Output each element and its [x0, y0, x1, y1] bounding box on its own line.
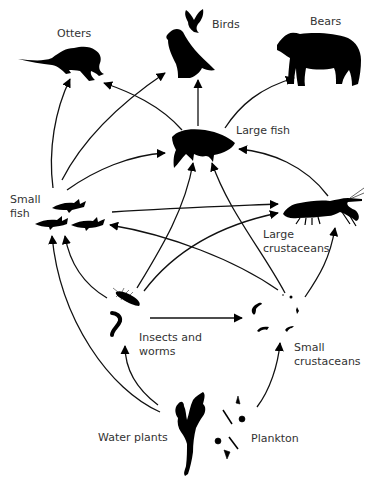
arrow-smallcrust-largecrust [305, 228, 335, 297]
flying-bird-icon [185, 9, 203, 33]
plankton-icon [215, 396, 245, 459]
arrow-plankton-smallcrust [257, 343, 280, 407]
water-plant-icon [175, 392, 205, 476]
label-large-fish: Large fish [236, 124, 290, 137]
arrow-waterplants-smallfish [52, 236, 160, 412]
label-large-crustaceans-line2: crustaceans [263, 242, 330, 255]
large-fish-icon [172, 129, 235, 168]
arrow-smallfish-largefish [67, 153, 165, 190]
arrow-insects-largecrust [144, 213, 278, 291]
insect-icon [113, 288, 140, 306]
crayfish-icon [283, 188, 364, 226]
label-plankton: Plankton [251, 432, 299, 445]
bird-icon [166, 29, 215, 78]
food-web-diagram: Otters Birds Bears Large fish Small fish… [0, 0, 365, 483]
arrow-smallcrust-smallfish [110, 225, 278, 290]
otter-icon [18, 47, 104, 81]
label-small-fish-line1: Small [10, 193, 41, 206]
label-birds: Birds [212, 18, 240, 31]
arrow-smallfish-largecrust [112, 204, 278, 212]
arrow-insects-largefish [137, 163, 193, 288]
arrow-insects-smallfish [65, 236, 107, 298]
arrow-largecrust-largefish [239, 149, 328, 196]
bear-icon [277, 33, 361, 86]
small-fish-icon [35, 199, 105, 231]
label-large-crustaceans-line1: Large [263, 228, 294, 241]
label-insects-line2: worms [139, 345, 176, 358]
label-bears: Bears [310, 15, 341, 28]
label-otters: Otters [57, 27, 91, 40]
label-water-plants: Water plants [98, 431, 168, 444]
label-small-fish-line2: fish [10, 207, 30, 220]
arrow-smallfish-birds [62, 73, 165, 180]
arrow-largefish-bears [225, 78, 294, 128]
small-crustacean-icon [252, 294, 299, 332]
arrow-largefish-otters [104, 83, 182, 130]
label-small-crustaceans-line2: crustaceans [294, 355, 361, 368]
label-insects-line1: Insects and [139, 331, 202, 344]
label-small-crustaceans-line1: Small [294, 341, 325, 354]
worm-icon [112, 313, 120, 335]
